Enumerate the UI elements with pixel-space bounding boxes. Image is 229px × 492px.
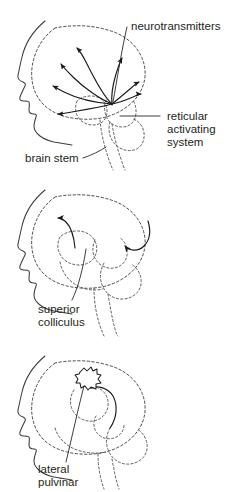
neurotransmitter-arrow-4 — [58, 104, 112, 114]
panel-superior-colliculus: superior colliculus — [18, 190, 150, 336]
head-profile-outline-2 — [18, 190, 72, 314]
brainstem-outline-3b — [112, 459, 119, 489]
brain-diagram-figure: neurotransmitters reticular activating s… — [0, 0, 229, 492]
label-pulvinar-line2: pulvinar — [38, 476, 78, 488]
neurotransmitter-arrow-1 — [77, 48, 112, 104]
label-superior-line2: colliculus — [38, 316, 85, 328]
cerebellum-outline-3 — [106, 428, 147, 464]
brainstem-outline-2b — [108, 294, 118, 336]
head-profile-outline — [18, 21, 72, 145]
head-profile-outline-3 — [18, 356, 72, 480]
label-pulvinar-line1: lateral — [38, 463, 69, 475]
superior-colliculus-arrow-right — [125, 221, 150, 250]
midbrain-outline-2 — [93, 238, 127, 268]
limbic-outline-3 — [55, 428, 105, 453]
cortex-outline-2 — [32, 195, 145, 289]
label-reticular-line2: activating — [167, 123, 216, 135]
brainstem-outline-3a — [98, 454, 104, 489]
label-brain-stem: brain stem — [25, 152, 79, 164]
panel-reticular-activating-system: neurotransmitters reticular activating s… — [18, 20, 221, 170]
thalamus-outline-2 — [58, 231, 97, 265]
cortex-outline — [32, 26, 145, 120]
brain-stem-leader-line — [83, 147, 106, 158]
neurotransmitters-leader-line — [113, 27, 127, 102]
superior-colliculus-leader-line — [72, 249, 86, 300]
lateral-pulvinar-leader-line — [66, 386, 84, 462]
label-reticular-line3: system — [167, 136, 203, 148]
neurotransmitter-arrow-3 — [53, 86, 112, 104]
label-reticular-line1: reticular — [167, 110, 208, 122]
diagram-canvas: neurotransmitters reticular activating s… — [0, 0, 229, 492]
panel-lateral-pulvinar: lateral pulvinar — [18, 356, 147, 489]
brainstem-outline — [100, 120, 113, 170]
neurotransmitter-arrow-2 — [61, 64, 112, 104]
label-neurotransmitters: neurotransmitters — [131, 20, 221, 32]
label-superior-line1: superior — [38, 303, 80, 315]
neurotransmitter-arrow-7 — [112, 94, 141, 104]
brainstem-outline-2a — [94, 288, 104, 336]
thalamus-outline-3 — [70, 388, 108, 421]
